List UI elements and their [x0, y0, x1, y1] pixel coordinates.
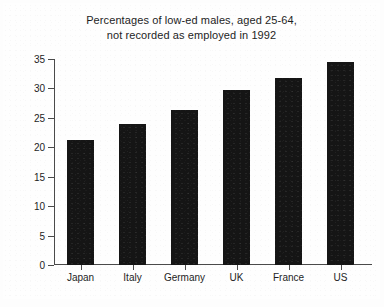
x-axis-tick — [133, 265, 134, 270]
y-axis-tick — [48, 88, 54, 89]
y-axis-tick — [48, 236, 54, 237]
chart-frame: Percentages of low-ed males, aged 25-64,… — [3, 3, 380, 299]
y-axis-tick — [48, 177, 54, 178]
chart-title: Percentages of low-ed males, aged 25-64,… — [3, 13, 380, 43]
y-axis-tick-label: 35 — [34, 54, 45, 65]
x-axis-tick — [185, 265, 186, 270]
y-axis-tick-label: 20 — [34, 142, 45, 153]
plot-area: 05101520253035 JapanItalyGermanyUKFrance… — [54, 59, 366, 265]
x-axis-tick-label: Japan — [67, 272, 94, 283]
chart-title-line-2: not recorded as employed in 1992 — [3, 28, 380, 43]
x-axis-tick-label: France — [273, 272, 304, 283]
y-axis-tick-label: 15 — [34, 171, 45, 182]
y-axis-tick-label: 5 — [39, 230, 45, 241]
x-axis-tick — [341, 265, 342, 270]
x-axis-tick — [289, 265, 290, 270]
y-axis-tick — [48, 59, 54, 60]
y-axis-tick-label: 30 — [34, 83, 45, 94]
bar — [67, 140, 94, 265]
x-axis-tick — [237, 265, 238, 270]
chart-title-line-1: Percentages of low-ed males, aged 25-64, — [3, 13, 380, 28]
x-axis-tick — [81, 265, 82, 270]
bar — [327, 62, 354, 265]
bar — [119, 124, 146, 265]
chart-figure: Percentages of low-ed males, aged 25-64,… — [0, 0, 384, 307]
y-axis-tick — [48, 206, 54, 207]
y-axis-tick — [48, 147, 54, 148]
x-axis-tick-label: Germany — [164, 272, 205, 283]
y-axis-tick-label: 0 — [39, 260, 45, 271]
bar — [171, 110, 198, 265]
x-axis-line — [54, 264, 372, 265]
y-axis-line — [54, 59, 55, 265]
y-axis-tick-label: 10 — [34, 201, 45, 212]
y-axis-tick-label: 25 — [34, 112, 45, 123]
y-axis-tick — [48, 265, 54, 266]
bar — [223, 90, 250, 265]
bar — [275, 78, 302, 265]
y-axis-tick — [48, 118, 54, 119]
x-axis-tick-label: US — [334, 272, 348, 283]
x-axis-tick-label: UK — [230, 272, 244, 283]
x-axis-tick-label: Italy — [123, 272, 141, 283]
